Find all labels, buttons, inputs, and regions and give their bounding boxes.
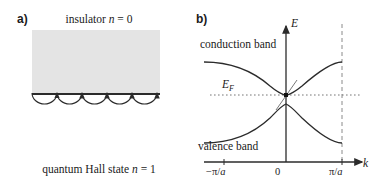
quantum-hall-caption: quantum Hall state n = 1: [4, 163, 194, 175]
figure-root: a) insulator n = 0 quantum H: [0, 0, 379, 188]
skipping-orbit-arc: [107, 93, 132, 104]
insulator-caption-text: insulator: [66, 13, 106, 25]
fermi-level-label: EF: [222, 78, 234, 93]
skipping-orbit-arc: [57, 93, 82, 104]
fermi-level-symbol: E: [222, 78, 229, 90]
insulator-caption-value: = 0: [117, 13, 132, 25]
x-tick-zero: 0: [275, 166, 280, 177]
energy-axis-label: E: [291, 17, 298, 29]
fermi-level-subscript: F: [229, 84, 234, 93]
panel-b: b): [190, 0, 379, 188]
panel-a: a) insulator n = 0 quantum H: [0, 0, 190, 188]
quantum-hall-caption-text: quantum Hall state: [42, 163, 129, 175]
band-structure-plot: [190, 0, 379, 188]
skipping-orbit-arc: [82, 93, 107, 104]
quantum-hall-caption-value: = 1: [141, 163, 156, 175]
insulator-region: [32, 30, 160, 94]
x-tick-minus-pi-a: −π/a: [206, 166, 225, 177]
edge-state-crossing-marker: [284, 93, 288, 97]
x-tick-pi-a-italic: a: [337, 166, 342, 177]
skipping-orbit-arc: [32, 93, 57, 104]
insulator-caption: insulator n = 0: [4, 13, 194, 25]
x-tick-minus-pi-a-prefix: −π/: [206, 166, 220, 177]
conduction-band-label: conduction band: [200, 38, 276, 50]
quantum-hall-caption-symbol: n: [132, 163, 138, 175]
valence-band-label: valence band: [198, 140, 258, 152]
insulator-caption-symbol: n: [109, 13, 115, 25]
x-tick-zero-prefix: 0: [275, 166, 280, 177]
valence-band-curve: [204, 104, 342, 143]
skipping-orbits-group: [30, 92, 165, 118]
x-tick-pi-a: π/a: [329, 166, 342, 177]
x-tick-pi-a-prefix: π/: [329, 166, 337, 177]
x-tick-minus-pi-a-italic: a: [220, 166, 225, 177]
momentum-axis-label: k: [363, 157, 368, 169]
skipping-orbit-arc: [132, 93, 157, 104]
